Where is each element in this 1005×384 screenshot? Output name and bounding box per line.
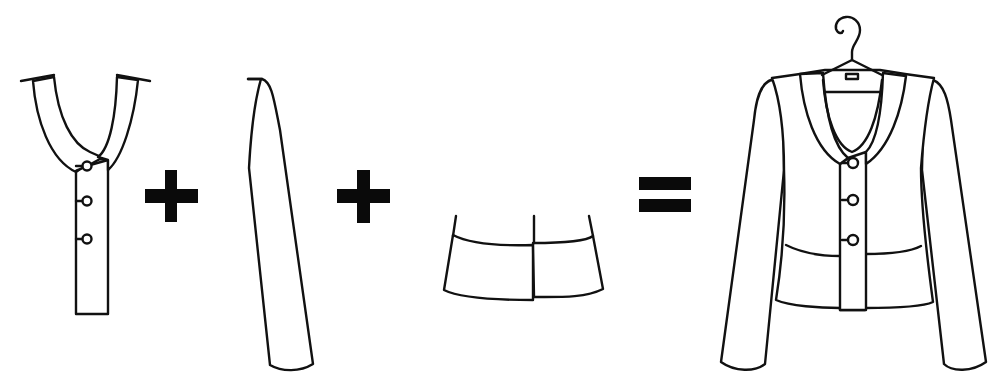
jacket-placket — [840, 152, 866, 310]
sleeve-piece: Sleeve — [248, 79, 313, 370]
button-icon — [83, 162, 92, 171]
button-icon — [848, 158, 858, 168]
equals-sign-icon: = — [639, 177, 691, 212]
plus-sign-icon: + — [145, 170, 198, 222]
button-icon — [848, 235, 858, 245]
collar-band-right — [98, 77, 138, 170]
peplum-panel-left — [444, 235, 533, 300]
plus-sign-icon: + — [337, 170, 390, 223]
collar-band-left — [33, 77, 108, 172]
peplum-piece: Peplum / waistband — [444, 216, 603, 300]
finished-jacket: Finished jacket on hanger — [721, 17, 986, 370]
jacket-sleeve-right — [922, 80, 986, 370]
garment-equation-diagram: Collar and button placket + Sleeve + — [0, 0, 1005, 384]
sleeve-outline — [248, 79, 313, 370]
button-icon — [83, 235, 92, 244]
peplum-panel-right — [533, 236, 603, 297]
jacket-sleeve-left — [721, 80, 784, 370]
collar-placket-piece: Collar and button placket — [21, 75, 150, 314]
button-icon — [848, 195, 858, 205]
button-icon — [83, 197, 92, 206]
